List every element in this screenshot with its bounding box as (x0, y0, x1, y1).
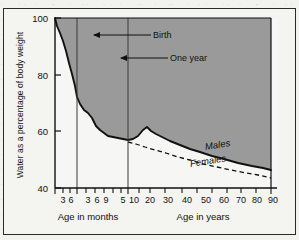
x-year-tick-60: 60 (215, 195, 233, 205)
x-axis-label-months: Age in months (28, 211, 148, 222)
y-tick-label-100: 100 (26, 13, 48, 24)
y-tick-label-40: 40 (26, 183, 48, 194)
y-axis-label: Water as a percentage of body weight (15, 15, 25, 195)
y-tick-label-60: 60 (26, 126, 48, 137)
x-year-tick-30: 30 (159, 195, 177, 205)
x-month-tick-9: 9 (97, 195, 115, 205)
x-axis-label-years: Age in years (143, 211, 263, 222)
x-tick-marks (55, 188, 271, 194)
x-year-tick-90: 90 (264, 195, 282, 205)
screenshot-root: Water as a percentage of body weight 100… (0, 0, 299, 240)
x-year-tick-50: 50 (197, 195, 215, 205)
x-year-tick-40: 40 (178, 195, 196, 205)
y-tick-label-80: 80 (26, 70, 48, 81)
x-month-tick-6a: 6 (62, 195, 80, 205)
birth-annotation-label: Birth (153, 30, 172, 40)
x-year-tick-20: 20 (141, 195, 159, 205)
one-year-annotation-label: One year (170, 53, 207, 63)
